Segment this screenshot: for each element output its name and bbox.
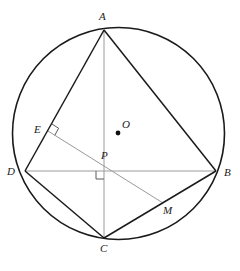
point-label-m: M xyxy=(163,205,172,216)
segment-EM xyxy=(48,131,163,203)
point-label-b: B xyxy=(224,167,231,178)
point-label-a: A xyxy=(99,11,106,22)
point-label-d: D xyxy=(7,166,15,177)
segment-DC xyxy=(25,171,104,238)
segment-CB xyxy=(104,171,216,238)
point-label-p: P xyxy=(101,150,108,161)
right-angle-at-P xyxy=(96,171,104,179)
center-point-O xyxy=(116,131,121,136)
point-label-o: O xyxy=(122,119,130,130)
geometry-canvas xyxy=(0,0,240,271)
geometry-figure: A B C D E M O P xyxy=(0,0,240,271)
point-label-e: E xyxy=(34,124,41,135)
segment-AD xyxy=(25,30,104,171)
segment-AB xyxy=(104,30,216,171)
point-label-c: C xyxy=(100,243,107,254)
